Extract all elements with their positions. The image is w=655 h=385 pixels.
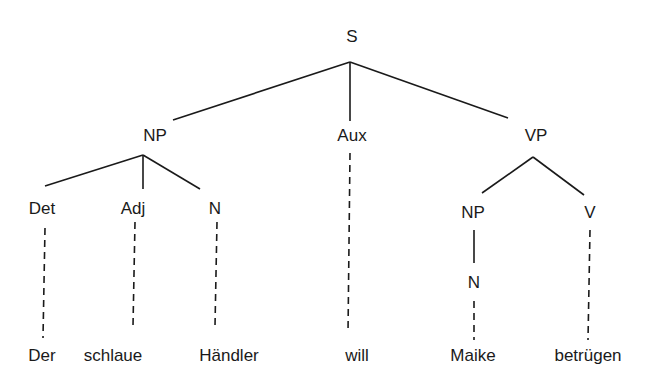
edge-np-n: [143, 155, 200, 189]
edge-det-der: [43, 228, 45, 338]
edge-vp-np: [482, 157, 533, 193]
word-haendler: Händler: [199, 346, 259, 365]
word-will: will: [344, 346, 369, 365]
syntax-tree: S NP Aux VP Det Adj N NP V N Der schlaue…: [0, 0, 655, 385]
edge-np-det: [45, 155, 143, 186]
word-der: Der: [28, 346, 56, 365]
node-n-object: N: [468, 273, 480, 292]
edge-s-np: [173, 62, 350, 120]
edge-s-vp: [350, 62, 508, 118]
edge-v-betruegen: [588, 230, 590, 340]
edge-aux-will: [348, 153, 350, 333]
word-schlaue: schlaue: [84, 346, 143, 365]
edge-adj-schlaue: [133, 222, 135, 326]
node-s: S: [346, 27, 357, 46]
node-vp: VP: [525, 126, 548, 145]
node-aux: Aux: [337, 126, 367, 145]
edge-n-haendler: [215, 222, 217, 326]
node-v: V: [584, 203, 596, 222]
word-maike: Maike: [450, 346, 495, 365]
edge-vp-v: [533, 157, 584, 195]
node-n: N: [209, 199, 221, 218]
node-adj: Adj: [121, 199, 146, 218]
node-det: Det: [29, 199, 56, 218]
word-betruegen: betrügen: [554, 346, 621, 365]
node-np: NP: [143, 126, 167, 145]
node-np-object: NP: [461, 203, 485, 222]
